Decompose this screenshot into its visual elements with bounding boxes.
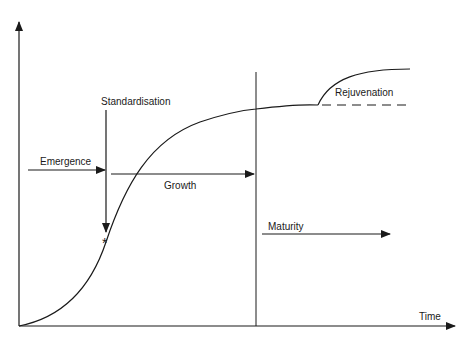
standardisation-marker-icon: * bbox=[102, 236, 107, 250]
rejuvenation-label: Rejuvenation bbox=[335, 88, 393, 98]
maturity-label: Maturity bbox=[268, 222, 304, 232]
x-axis-label: Time bbox=[419, 312, 441, 322]
emergence-label: Emergence bbox=[40, 157, 91, 167]
standardisation-label: Standardisation bbox=[101, 97, 171, 107]
lifecycle-curve bbox=[19, 105, 318, 326]
growth-label: Growth bbox=[164, 181, 196, 191]
lifecycle-diagram bbox=[0, 0, 470, 345]
